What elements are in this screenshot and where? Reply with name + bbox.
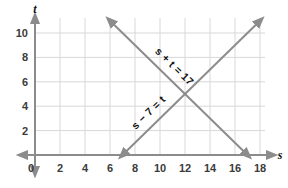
x-tick-label-8: 8	[132, 162, 138, 174]
y-tick-label-8: 8	[22, 51, 28, 63]
y-tick-label-10: 10	[16, 27, 28, 39]
chart-background	[0, 0, 288, 188]
y-tick-label-6: 6	[22, 76, 28, 88]
x-tick-label-2: 2	[57, 162, 63, 174]
x-tick-label-10: 10	[154, 162, 166, 174]
x-tick-label-14: 14	[204, 162, 217, 174]
x-tick-label-18: 18	[254, 162, 266, 174]
coordinate-graph: 10 8 6 4 2 0 2 4 6 8 10 12 14 16 18 t s …	[0, 0, 288, 188]
x-tick-label-6: 6	[107, 162, 113, 174]
y-tick-label-2: 2	[22, 125, 28, 137]
x-tick-label-16: 16	[229, 162, 241, 174]
y-tick-label-4: 4	[22, 100, 29, 112]
x-tick-label-0: 0	[28, 162, 34, 174]
x-tick-label-12: 12	[179, 162, 191, 174]
x-tick-label-4: 4	[82, 162, 89, 174]
chart-canvas: 10 8 6 4 2 0 2 4 6 8 10 12 14 16 18 t s …	[0, 0, 288, 188]
x-axis-label: s	[277, 148, 283, 162]
